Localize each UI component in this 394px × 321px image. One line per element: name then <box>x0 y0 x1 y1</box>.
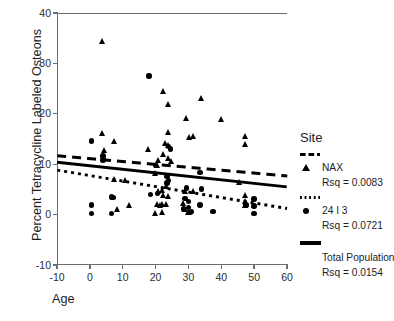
legend-label-nax: NAX <box>322 162 343 173</box>
chart-screenshot: -10010203040 -100102030405060 Percent Te… <box>0 0 394 321</box>
dashed-line-icon <box>300 153 322 156</box>
legend-item-nax[interactable]: NAX <box>300 161 394 174</box>
legend-rsq-nax: Rsq = 0.0083 <box>300 177 394 188</box>
x-tick <box>89 264 90 269</box>
legend: Site NAX Rsq = 0.0083 24 I 3 Rsq = 0.072… <box>300 131 394 278</box>
y-tick <box>53 12 58 13</box>
legend-swatch-nax-line <box>300 148 394 161</box>
y-tick <box>53 113 58 114</box>
y-axis-title: Percent Tetracycline Labeled Osteons <box>30 10 44 260</box>
y-tick <box>53 214 58 215</box>
legend-swatch-total-line <box>300 236 394 249</box>
x-tick <box>122 264 123 269</box>
x-tick <box>155 264 156 269</box>
x-tick <box>221 264 222 269</box>
y-tick <box>53 63 58 64</box>
x-tick <box>253 264 254 269</box>
x-tick <box>286 264 287 269</box>
legend-label-site243: 24 I 3 <box>322 205 348 216</box>
dotted-line-icon <box>300 196 322 199</box>
legend-swatch-site243-line <box>300 191 394 204</box>
legend-label-total-population: Total Population <box>300 252 394 263</box>
solid-line-icon <box>300 241 322 245</box>
legend-item-site243[interactable]: 24 I 3 <box>300 204 394 217</box>
x-axis-title: Age <box>52 292 74 306</box>
y-tick <box>53 164 58 165</box>
legend-rsq-site243: Rsq = 0.0721 <box>300 220 394 231</box>
x-tick <box>56 264 57 269</box>
triangle-marker-icon <box>300 164 322 171</box>
legend-rsq-total: Rsq = 0.0154 <box>300 267 394 278</box>
x-tick <box>188 264 189 269</box>
legend-title: Site <box>300 131 394 146</box>
circle-marker-icon <box>300 208 322 214</box>
plot-frame <box>57 13 287 265</box>
y-tick-label: -10 <box>11 260 51 271</box>
